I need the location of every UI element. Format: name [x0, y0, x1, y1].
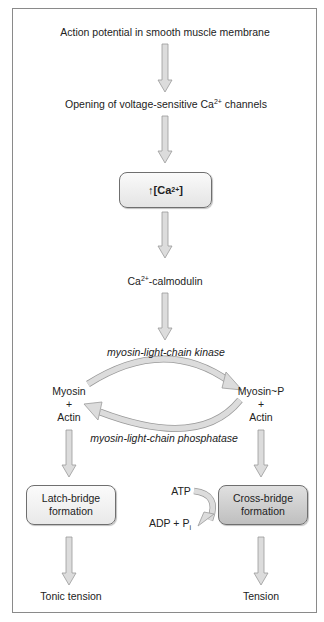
phosphatase-arrowhead — [84, 402, 102, 420]
cross-bridge-box: Cross-bridge formation — [218, 485, 308, 525]
channels-suffix: channels — [222, 98, 267, 110]
calcium-box: ↑ [Ca2+] — [119, 172, 212, 208]
tension-label: Tension — [243, 590, 279, 603]
actin-label: Actin — [238, 411, 284, 424]
step-action-potential: Action potential in smooth muscle membra… — [60, 26, 270, 39]
myosin-p-actin-right: Myosin~P + Actin — [238, 385, 284, 424]
plus-label: + — [52, 398, 85, 411]
cross-line1: Cross-bridge — [233, 492, 293, 505]
down-arrow-latch — [62, 430, 76, 477]
cross-line2: formation — [233, 505, 293, 518]
atp-label: ATP — [171, 485, 191, 498]
down-arrow-cross — [254, 430, 268, 477]
latch-bridge-box: Latch-bridge formation — [26, 485, 116, 525]
down-arrow-tonic — [62, 537, 76, 585]
pi-sub: i — [189, 524, 191, 531]
adp-label: ADP + P — [149, 517, 189, 529]
step-calmodulin: Ca2+-calmodulin — [127, 275, 202, 288]
latch-line2: formation — [42, 505, 100, 518]
down-arrow-2 — [158, 116, 172, 163]
down-arrow-1 — [158, 44, 172, 92]
actin-label: Actin — [52, 411, 85, 424]
ca-box-label: [Ca — [154, 184, 172, 197]
calmodulin-label: Ca — [127, 275, 140, 287]
down-arrow-3 — [158, 212, 172, 258]
tonic-tension-label: Tonic tension — [40, 590, 101, 603]
down-arrow-4 — [158, 293, 172, 340]
channels-label: Opening of voltage-sensitive Ca — [65, 98, 214, 110]
calmodulin-suffix: -calmodulin — [149, 275, 203, 287]
plus-label: + — [238, 398, 284, 411]
step-channels: Opening of voltage-sensitive Ca2+ channe… — [65, 98, 267, 111]
action-potential-label: Action potential in smooth muscle membra… — [60, 26, 270, 38]
latch-line1: Latch-bridge — [42, 492, 100, 505]
myosin-actin-left: Myosin + Actin — [52, 385, 85, 424]
kinase-label: myosin-light-chain kinase — [107, 346, 225, 359]
phosphatase-label: myosin-light-chain phosphatase — [90, 432, 238, 445]
channels-sup: 2+ — [214, 98, 222, 105]
down-arrow-tension — [254, 537, 268, 585]
myosin-label: Myosin — [52, 385, 85, 398]
ca-box-suffix: ] — [179, 184, 183, 197]
myosin-p-label: Myosin~P — [238, 385, 284, 398]
adp-pi-label: ADP + Pi — [149, 517, 191, 530]
